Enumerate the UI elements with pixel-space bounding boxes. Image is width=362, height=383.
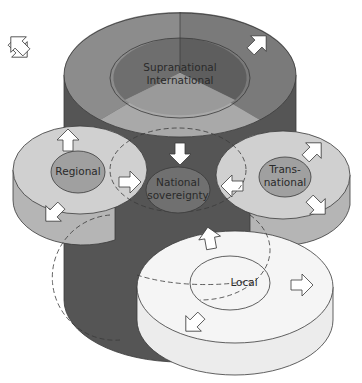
national-label-line1: National bbox=[156, 176, 200, 188]
supranational-label-line2: International bbox=[146, 74, 213, 86]
supranational-label-line1: Supranational bbox=[143, 61, 216, 73]
national-label-line2: sovereignty bbox=[147, 189, 209, 201]
governance-levels-diagram: Supranational International Regional Tra… bbox=[0, 0, 362, 383]
transnational-label-line1: Trans- bbox=[268, 163, 301, 175]
regional-label: Regional bbox=[55, 165, 100, 177]
transnational-label-line2: national bbox=[264, 176, 307, 188]
